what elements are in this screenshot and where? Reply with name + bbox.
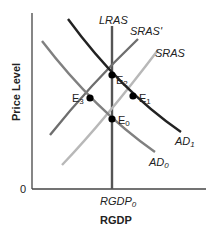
y-axis-title: Price Level [10,63,22,121]
point-e3 [86,94,93,101]
label-sras: SRAS [155,47,186,59]
diagram-canvas: E2 E1 E0 E3 LRAS SRAS' SRAS AD1 AD0 0 RG… [0,0,218,233]
label-ad1: AD1 [174,135,195,149]
point-e2 [108,71,115,78]
point-e0 [108,115,115,122]
x-tick-rgdp0: RGDP0 [100,195,137,209]
label-sras-prime: SRAS' [130,25,163,37]
label-lras: LRAS [99,14,128,26]
origin-label: 0 [20,183,26,195]
label-ad0: AD0 [148,156,169,170]
x-axis-title: RGDP [100,214,132,226]
label-e2: E2 [116,74,128,88]
label-e3: E3 [72,92,84,106]
ad-as-diagram: E2 E1 E0 E3 LRAS SRAS' SRAS AD1 AD0 0 RG… [0,0,218,233]
label-e1: E1 [139,92,151,106]
point-e1 [129,92,136,99]
label-e0: E0 [118,114,130,128]
